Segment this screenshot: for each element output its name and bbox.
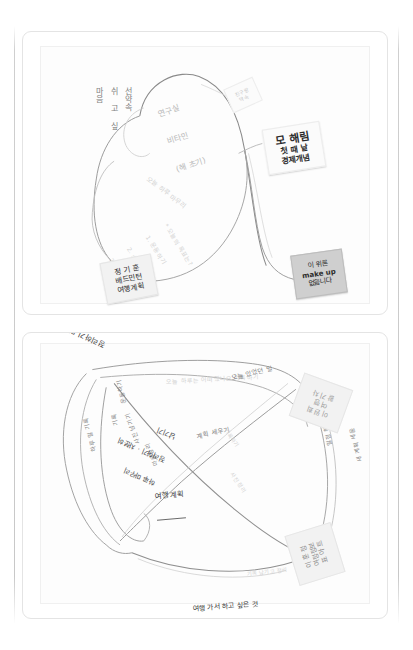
label-bitang-line-3: (해 초기) bbox=[175, 155, 207, 174]
label-bottom-center-line-1: 여행 가서 하고 싶은 것 bbox=[192, 600, 258, 613]
label-bitang-line-1: 연구실 bbox=[157, 101, 189, 120]
label-right-diag-1-line-1: 기록하기 bbox=[223, 428, 240, 449]
label-column-left-line-3: 마음 bbox=[94, 87, 104, 130]
label-bottom-faint: 기록 남기고 정리 bbox=[245, 554, 289, 591]
label-bottom-left-line-3: 남기기 bbox=[127, 413, 177, 441]
scanned-page: 연구실 비타민 (해 초기) 오늘 하루 마무리 선약속 쉬 고 싶 마음 * … bbox=[0, 0, 413, 650]
bottom-panel-paper: 정리하기 먼저 해야할 일들 이 정 호 오늘 하루는 어떠했나요 기록하기 오… bbox=[40, 343, 370, 604]
label-right-diag-2-line-1: 사진 정리 bbox=[229, 472, 247, 494]
label-center-under: 여행계획 bbox=[153, 471, 186, 520]
label-column-left: 선약속 쉬 고 싶 마음 bbox=[94, 87, 133, 130]
label-bitang-line-2: 비타민 bbox=[166, 128, 198, 147]
sticky-note-make-up-line-3: 없음니다 bbox=[308, 277, 333, 289]
label-top-left-rot-line-1: 정리하기 먼저 bbox=[61, 332, 106, 350]
label-top-right-line-1: 오늘 있었던 일 bbox=[231, 365, 273, 383]
label-bottom-left-line-2: 정리하기 · 차분히 bbox=[117, 436, 167, 464]
label-bottom-faint-line-1: 기록 남기고 정리 bbox=[246, 567, 287, 578]
top-panel-paper: 연구실 비타민 (해 초기) 오늘 하루 마무리 선약속 쉬 고 싶 마음 * … bbox=[40, 46, 370, 304]
label-bottom-left-line-1: 하루 마무리 bbox=[107, 459, 157, 487]
label-right-vert-2-line-1: 새 계획 세움 bbox=[348, 426, 364, 462]
label-column-left-line-2: 쉬 고 싶 bbox=[109, 87, 119, 130]
label-left-vert-1-line-1: 운동하기 bbox=[114, 378, 127, 404]
sticky-note-mo-haerim[interactable]: 모 해림 첫 때 날 경제개념 bbox=[262, 121, 326, 176]
mind-map-bottom-panel[interactable]: 정리하기 먼저 해야할 일들 이 정 호 오늘 하루는 어떠했나요 기록하기 오… bbox=[22, 332, 388, 619]
mind-map-top-panel[interactable]: 연구실 비타민 (해 초기) 오늘 하루 마무리 선약속 쉬 고 싶 마음 * … bbox=[22, 31, 388, 315]
page-edge-rule-left bbox=[14, 26, 15, 624]
page-edge-rule-right bbox=[398, 26, 399, 624]
label-left-vert-3-line-1: 하루 일 기록 bbox=[82, 416, 98, 452]
label-center-under-line-1: 여행계획 bbox=[155, 489, 184, 500]
sticky-note-make-up[interactable]: 이 위론 make up 없음니다 bbox=[290, 249, 348, 300]
label-curve-note-line-1: 오늘 하루 마무리 bbox=[145, 175, 188, 211]
label-right-vert-2: 새 계획 세움 bbox=[334, 423, 378, 466]
label-column-left-line-1: 선약속 bbox=[123, 87, 133, 130]
